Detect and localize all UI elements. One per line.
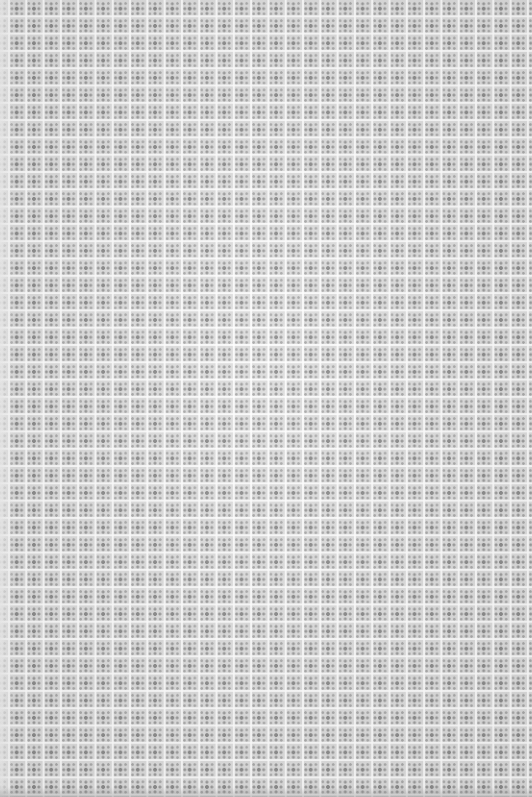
scan-shading bbox=[0, 0, 532, 797]
patterned-paper bbox=[0, 0, 532, 797]
